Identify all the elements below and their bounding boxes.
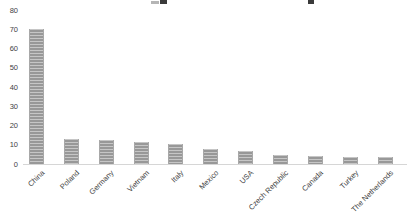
bar-chart: 01020304050607080ChinaPolandGermanyVietn… — [0, 0, 407, 213]
x-axis-category-label: Vietnam — [126, 169, 151, 194]
y-axis-tick-label: 20 — [0, 121, 18, 130]
y-axis-tick-label: 70 — [0, 25, 18, 34]
y-axis-tick-label: 80 — [0, 6, 18, 15]
bar-germany — [99, 140, 114, 164]
bar-czech-republic — [273, 155, 288, 164]
bar-the-netherlands — [378, 157, 393, 164]
plot-area: 01020304050607080ChinaPolandGermanyVietn… — [0, 0, 407, 213]
x-axis-line — [23, 164, 407, 165]
y-axis-tick-label: 10 — [0, 140, 18, 149]
x-axis-category-label: Germany — [88, 169, 115, 196]
bar-italy — [168, 144, 183, 164]
bar-turkey — [343, 157, 358, 164]
x-axis-category-label: Mexico — [198, 169, 220, 191]
x-axis-category-label: Canada — [301, 169, 325, 193]
bar-china — [29, 29, 44, 164]
x-axis-category-label: Turkey — [338, 169, 360, 191]
x-axis-category-label: China — [27, 169, 47, 189]
bar-canada — [308, 156, 323, 164]
bar-mexico — [203, 149, 218, 164]
x-axis-category-label: Poland — [59, 169, 81, 191]
y-axis-tick-label: 0 — [0, 160, 18, 169]
x-axis-category-label: Italy — [170, 169, 185, 184]
bar-usa — [238, 151, 253, 164]
y-axis-tick-label: 40 — [0, 83, 18, 92]
y-axis-tick-label: 60 — [0, 44, 18, 53]
y-axis-tick-label: 50 — [0, 63, 18, 72]
bar-poland — [64, 139, 79, 164]
x-axis-category-label: USA — [239, 169, 256, 186]
bar-vietnam — [134, 142, 149, 164]
y-axis-tick-label: 30 — [0, 102, 18, 111]
